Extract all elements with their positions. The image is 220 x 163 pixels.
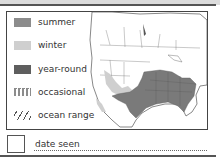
date-seen-input-line[interactable] [34, 150, 207, 151]
date-seen-label: date seen [35, 139, 80, 149]
north-america-map [0, 0, 220, 163]
date-seen-checkbox[interactable] [7, 135, 25, 153]
bottom-divider [0, 155, 216, 157]
